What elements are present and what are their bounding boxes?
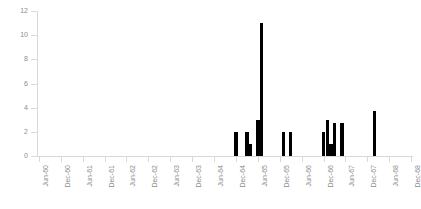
x-axis-tick [411, 157, 412, 162]
x-axis-tick [83, 157, 84, 162]
x-axis-tick-label: Jun-60 [42, 165, 49, 186]
x-axis-tick [126, 157, 127, 162]
x-axis-tick [39, 157, 40, 162]
y-axis-tick [31, 156, 37, 157]
y-axis-tick-label: 6 [0, 80, 28, 87]
y-axis-tick-label: 2 [0, 128, 28, 135]
x-axis-tick-label: Dec-68 [414, 165, 421, 188]
x-axis-tick-label: Jun-65 [261, 165, 268, 186]
bar [260, 23, 263, 156]
x-axis-tick-label: Jun-66 [305, 165, 312, 186]
y-axis-tick-label: 4 [0, 104, 28, 111]
x-axis-tick [170, 157, 171, 162]
y-axis-tick-label: 12 [0, 7, 28, 14]
x-axis-line [37, 156, 413, 157]
x-axis-tick [61, 157, 62, 162]
x-axis-tick [280, 157, 281, 162]
x-axis-tick [105, 157, 106, 162]
y-axis-tick-label: 8 [0, 55, 28, 62]
x-axis-tick-label: Jun-67 [348, 165, 355, 186]
x-axis-tick-label: Dec-65 [283, 165, 290, 188]
x-axis-tick [345, 157, 346, 162]
bar [249, 144, 252, 156]
x-axis-tick [258, 157, 259, 162]
bars-layer [37, 11, 413, 156]
bar [333, 123, 336, 156]
x-axis-tick [389, 157, 390, 162]
x-axis-tick-label: Jun-62 [129, 165, 136, 186]
x-axis-tick-label: Dec-67 [370, 165, 377, 188]
x-axis-tick-label: Dec-62 [151, 165, 158, 188]
x-axis-tick-label: Dec-61 [108, 165, 115, 188]
x-axis-tick [367, 157, 368, 162]
x-axis-tick-label: Dec-66 [327, 165, 334, 188]
x-axis-tick-label: Dec-63 [195, 165, 202, 188]
x-axis-tick [236, 157, 237, 162]
x-axis-tick-label: Jun-63 [173, 165, 180, 186]
bar [373, 111, 376, 156]
x-axis-tick [148, 157, 149, 162]
bar [234, 132, 237, 156]
x-axis-tick [324, 157, 325, 162]
x-axis-tick-label: Dec-60 [64, 165, 71, 188]
x-axis-tick-label: Jun-61 [86, 165, 93, 186]
x-axis-tick-label: Dec-64 [239, 165, 246, 188]
x-axis-tick [302, 157, 303, 162]
bar [289, 132, 292, 156]
x-axis-tick [192, 157, 193, 162]
bar [282, 132, 285, 156]
bar [340, 123, 343, 156]
x-axis-tick [214, 157, 215, 162]
x-axis-tick-label: Jun-64 [217, 165, 224, 186]
y-axis-tick-label: 10 [0, 31, 28, 38]
x-axis-tick-label: Jun-68 [392, 165, 399, 186]
y-axis-tick-label: 0 [0, 152, 28, 159]
